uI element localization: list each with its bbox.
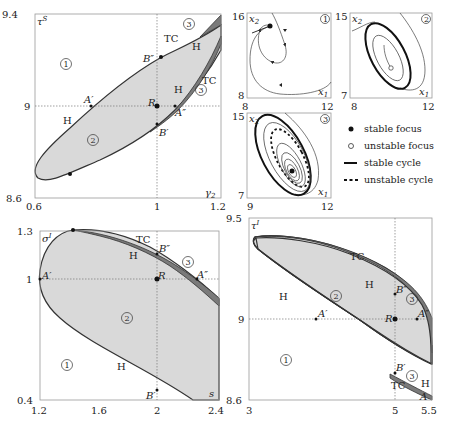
xtick-5: 5 bbox=[392, 405, 398, 416]
svg-text:1: 1 bbox=[64, 60, 69, 69]
xtick: 8 bbox=[351, 101, 357, 112]
unstable-focus-dot bbox=[389, 66, 393, 70]
label-B-prime: B′ bbox=[395, 362, 406, 373]
point-max bbox=[71, 228, 75, 232]
legend: stable focus unstable focus stable cycle… bbox=[344, 123, 434, 185]
xtick-5.5: 5.5 bbox=[421, 405, 437, 416]
ytick: 16 bbox=[232, 11, 245, 22]
xtick: 12 bbox=[321, 201, 334, 212]
label-H: H bbox=[129, 250, 138, 261]
svg-text:unstable cycle: unstable cycle bbox=[364, 174, 433, 185]
region-label-3: 3 bbox=[183, 257, 194, 268]
label-B-dprime: B″ bbox=[142, 53, 154, 64]
ytick-8.6: 8.6 bbox=[226, 395, 242, 406]
label-B-dprime: B″ bbox=[158, 243, 170, 254]
ytick-1: 1 bbox=[26, 274, 32, 285]
label-B-prime: B′ bbox=[158, 127, 169, 138]
svg-text:3: 3 bbox=[323, 115, 328, 124]
ytick-9.4: 9.4 bbox=[2, 9, 18, 20]
unstable-cycle bbox=[263, 124, 316, 193]
ytick: 7 bbox=[238, 190, 244, 201]
region-label-1: 1 bbox=[61, 59, 72, 70]
svg-text:3: 3 bbox=[410, 372, 415, 381]
label-TC: TC bbox=[202, 75, 217, 86]
legend-item-stable-focus: stable focus bbox=[349, 123, 422, 134]
label-TC: TC bbox=[350, 251, 365, 262]
region-label-1: 1 bbox=[321, 15, 330, 24]
ylabel-tau: τI bbox=[251, 219, 260, 231]
ytick-9: 9 bbox=[238, 314, 244, 325]
xtick: 9 bbox=[247, 201, 253, 212]
region-label-3b: 3 bbox=[407, 371, 418, 382]
label-H: H bbox=[365, 279, 374, 290]
trajectory bbox=[367, 31, 410, 85]
open-dot-icon bbox=[349, 144, 354, 149]
svg-text:1: 1 bbox=[284, 356, 289, 365]
panel-top-left: 9.4 9 8.6 0.6 1 1.2 τS γ2 1 2 3 3 H H H … bbox=[2, 9, 226, 212]
legend-item-stable-cycle: stable cycle bbox=[344, 157, 421, 168]
label-TC: TC bbox=[136, 234, 151, 245]
svg-text:1: 1 bbox=[323, 15, 328, 24]
legend-item-unstable-cycle: unstable cycle bbox=[344, 174, 433, 185]
ylabel-sigma: σI bbox=[42, 232, 52, 244]
figure: 9.4 9 8.6 0.6 1 1.2 τS γ2 1 2 3 3 H H H … bbox=[0, 0, 451, 424]
ytick: 15 bbox=[335, 11, 348, 22]
xtick-2: 2 bbox=[154, 405, 160, 416]
label-R: R bbox=[384, 313, 393, 324]
svg-text:3: 3 bbox=[187, 20, 192, 29]
svg-text:unstable focus: unstable focus bbox=[364, 140, 434, 151]
svg-text:2: 2 bbox=[125, 314, 130, 323]
point-min bbox=[68, 172, 72, 176]
region-label-2: 2 bbox=[422, 15, 431, 24]
panel-phase-3: 15 7 9 12 x2 x1 3 bbox=[232, 106, 334, 212]
svg-text:2: 2 bbox=[334, 292, 339, 301]
svg-text:3: 3 bbox=[199, 86, 204, 95]
filled-dot-icon bbox=[349, 127, 354, 132]
svg-text:3: 3 bbox=[186, 258, 191, 267]
xtick-1.2: 1.2 bbox=[31, 405, 47, 416]
stable-focus-dot bbox=[268, 24, 273, 29]
point-R bbox=[393, 317, 398, 322]
svg-text:stable focus: stable focus bbox=[364, 123, 422, 134]
region-label-3a: 3 bbox=[184, 19, 195, 30]
trajectory-arrow bbox=[252, 26, 270, 33]
point-B-dprime bbox=[159, 55, 163, 59]
point-B-prime bbox=[156, 389, 159, 392]
label-TC: TC bbox=[391, 380, 406, 391]
label-A-dprime: A″ bbox=[174, 107, 186, 118]
label-A-prime: A′ bbox=[41, 270, 52, 281]
label-A: A bbox=[419, 391, 427, 402]
stable-focus-dot bbox=[290, 169, 295, 174]
panel-phase-1: 16 8 8 12 x2 x1 1 bbox=[232, 11, 334, 112]
xtick: 12 bbox=[321, 101, 334, 112]
ytick-9: 9 bbox=[24, 101, 30, 112]
ytick: 15 bbox=[232, 111, 245, 122]
label-H: H bbox=[421, 378, 430, 389]
ylabel-x2: x2 bbox=[249, 13, 260, 26]
label-H: H bbox=[192, 41, 201, 52]
label-A-prime: A′ bbox=[317, 308, 328, 319]
label-H: H bbox=[117, 361, 126, 372]
xtick-1.6: 1.6 bbox=[91, 405, 107, 416]
xtick: 12 bbox=[422, 101, 435, 112]
xlabel-s: s bbox=[209, 388, 214, 399]
svg-text:2: 2 bbox=[424, 15, 429, 24]
ytick-1.3: 1.3 bbox=[17, 226, 33, 237]
svg-text:stable cycle: stable cycle bbox=[364, 157, 421, 168]
label-R: R bbox=[157, 270, 166, 281]
ytick: 8 bbox=[238, 90, 244, 101]
region-label-1: 1 bbox=[62, 360, 73, 371]
trajectory bbox=[384, 45, 391, 68]
region-label-1: 1 bbox=[281, 355, 292, 366]
region-label-3b: 3 bbox=[196, 85, 207, 96]
legend-item-unstable-focus: unstable focus bbox=[349, 140, 435, 151]
region-label-3: 3 bbox=[321, 115, 330, 124]
panel-phase-2: 15 7 8 12 x2 x1 2 bbox=[335, 11, 435, 112]
panel-bottom-right: 9.5 9 8.6 3 5 5.5 τI 1 2 3 3 H H H TC TC… bbox=[226, 213, 437, 416]
label-H: H bbox=[63, 115, 72, 126]
ylabel-x2: x2 bbox=[352, 13, 363, 26]
label-H: H bbox=[174, 84, 183, 95]
arrow-icon bbox=[283, 29, 287, 32]
panel-bottom-left: 1.3 1 0.4 1.2 1.6 2 2.4 σI s 1 2 3 H H T… bbox=[17, 226, 224, 416]
svg-text:3: 3 bbox=[410, 295, 415, 304]
